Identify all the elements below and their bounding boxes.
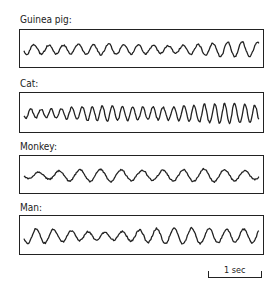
eeg-waveform (20, 216, 263, 254)
eeg-trace-panel (19, 29, 264, 68)
eeg-trace-panel (19, 215, 264, 255)
panel-label: Man: (20, 202, 42, 213)
eeg-waveform (20, 156, 263, 193)
eeg-waveform (20, 93, 263, 132)
panel-label: Guinea pig: (20, 14, 72, 25)
time-scale-label: 1 sec (223, 265, 246, 275)
panel-label: Cat: (20, 78, 38, 89)
panel-label: Monkey: (20, 141, 57, 152)
eeg-waveform (20, 30, 263, 67)
eeg-trace-panel (19, 155, 264, 194)
eeg-trace-panel (19, 92, 264, 133)
